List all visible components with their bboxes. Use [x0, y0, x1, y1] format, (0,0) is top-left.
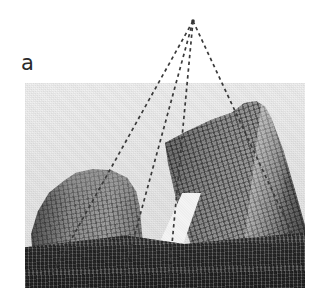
photograph: [25, 83, 305, 288]
panel-label: a: [21, 52, 34, 74]
vanishing-point-marker: [191, 19, 195, 23]
figure-panel: a: [0, 0, 330, 301]
